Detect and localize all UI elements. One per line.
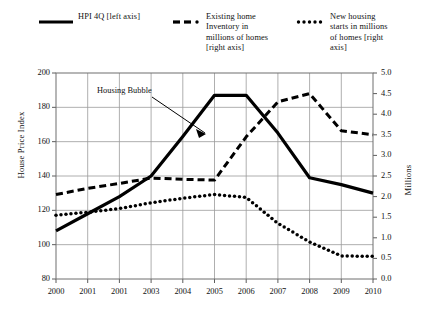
tick-label: 2.5 bbox=[381, 171, 407, 180]
tick-label: 2006 bbox=[229, 287, 263, 296]
tick-label: 2001 bbox=[102, 287, 136, 296]
housing-market-chart: HPI 4Q [left axis] Existing home Invento… bbox=[0, 0, 433, 310]
tick-label: 200 bbox=[26, 68, 50, 77]
tick-label: 160 bbox=[26, 137, 50, 146]
tick-label: 2.0 bbox=[381, 192, 407, 201]
tick-label: 2003 bbox=[134, 287, 168, 296]
tick-label: 2005 bbox=[198, 287, 232, 296]
tick-label: 4.0 bbox=[381, 109, 407, 118]
tick-label: 120 bbox=[26, 205, 50, 214]
tick-label: 100 bbox=[26, 240, 50, 249]
tick-label: 2009 bbox=[324, 287, 358, 296]
plot-area bbox=[0, 0, 433, 310]
tick-label: 4.5 bbox=[381, 89, 407, 98]
tick-label: 2010 bbox=[356, 287, 390, 296]
housing-bubble-annotation: Housing Bubble bbox=[97, 86, 152, 95]
tick-label: 180 bbox=[26, 102, 50, 111]
tick-label: 2004 bbox=[166, 287, 200, 296]
tick-label: 5.0 bbox=[381, 68, 407, 77]
tick-label: 3.0 bbox=[381, 150, 407, 159]
tick-label: 2000 bbox=[39, 287, 73, 296]
tick-label: 2008 bbox=[293, 287, 327, 296]
tick-label: 2001 bbox=[71, 287, 105, 296]
tick-label: 1.5 bbox=[381, 212, 407, 221]
tick-label: 140 bbox=[26, 171, 50, 180]
tick-label: 3.5 bbox=[381, 130, 407, 139]
tick-label: 0.5 bbox=[381, 253, 407, 262]
tick-label: 0.0 bbox=[381, 274, 407, 283]
tick-label: 80 bbox=[26, 274, 50, 283]
tick-label: 1.0 bbox=[381, 233, 407, 242]
tick-label: 2007 bbox=[261, 287, 295, 296]
